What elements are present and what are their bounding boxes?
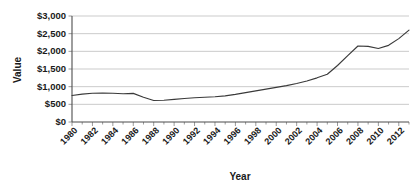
x-axis-tick-labels: 1980198219841986198819901992199419961998… bbox=[58, 125, 406, 146]
x-axis-tick-marks bbox=[72, 122, 409, 126]
data-series-line bbox=[72, 30, 409, 100]
x-tick-label: 2012 bbox=[385, 125, 406, 146]
y-tick-label: $2,000 bbox=[37, 45, 66, 56]
x-tick-label: 1994 bbox=[201, 125, 222, 146]
y-tick-label: $3,000 bbox=[37, 10, 66, 21]
y-axis-title: Value bbox=[12, 57, 23, 84]
x-tick-label: 1980 bbox=[58, 125, 79, 146]
x-tick-label: 1992 bbox=[181, 125, 202, 146]
x-tick-label: 2010 bbox=[365, 125, 386, 146]
x-tick-label: 2004 bbox=[303, 125, 324, 146]
y-axis-tick-labels: $0$500$1,000$1,500$2,000$2,500$3,000 bbox=[37, 10, 66, 127]
x-tick-label: 1984 bbox=[99, 125, 120, 146]
chart-canvas: $0$500$1,000$1,500$2,000$2,500$3,000 198… bbox=[0, 0, 418, 187]
x-tick-label: 2006 bbox=[324, 125, 345, 146]
x-tick-label: 1990 bbox=[160, 125, 181, 146]
gridlines bbox=[69, 16, 410, 122]
y-tick-label: $1,000 bbox=[37, 81, 66, 92]
line-chart: $0$500$1,000$1,500$2,000$2,500$3,000 198… bbox=[0, 0, 418, 187]
x-tick-label: 2000 bbox=[262, 125, 283, 146]
x-tick-label: 2002 bbox=[283, 125, 304, 146]
x-tick-label: 1996 bbox=[222, 125, 243, 146]
x-tick-label: 1998 bbox=[242, 125, 263, 146]
x-tick-label: 1982 bbox=[79, 125, 100, 146]
y-tick-label: $1,500 bbox=[37, 63, 66, 74]
x-tick-label: 1986 bbox=[119, 125, 140, 146]
x-tick-label: 1988 bbox=[140, 125, 161, 146]
x-axis-title: Year bbox=[229, 171, 250, 182]
y-tick-label: $0 bbox=[55, 116, 66, 127]
y-tick-label: $2,500 bbox=[37, 28, 66, 39]
x-tick-label: 2008 bbox=[344, 125, 365, 146]
y-tick-label: $500 bbox=[45, 98, 66, 109]
